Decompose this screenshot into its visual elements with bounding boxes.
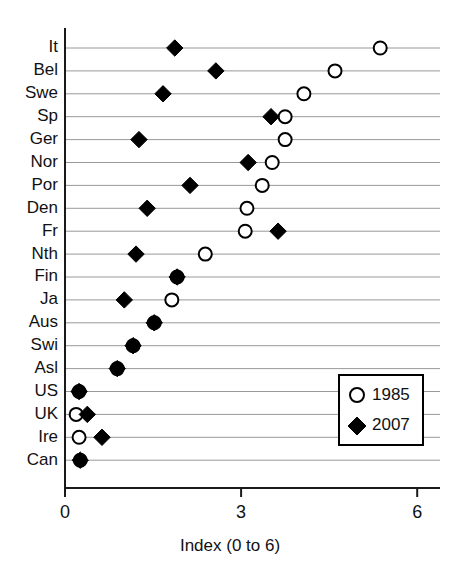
category-label-por: Por xyxy=(32,175,59,194)
data-point-1985-den xyxy=(240,202,253,215)
data-point-1985-nor xyxy=(266,156,279,169)
data-point-2007-por xyxy=(182,177,198,193)
data-point-1985-ger xyxy=(279,133,292,146)
data-point-1985-swe xyxy=(297,87,310,100)
data-point-2007-nor xyxy=(240,154,256,170)
data-point-1985-ire xyxy=(73,431,86,444)
category-label-fr: Fr xyxy=(42,221,58,240)
category-label-sp: Sp xyxy=(37,106,58,125)
data-point-2007-bel xyxy=(208,63,224,79)
x-tick-group: 036 xyxy=(60,488,422,522)
category-label-it: It xyxy=(49,37,59,56)
category-label-ger: Ger xyxy=(30,129,59,148)
data-point-2007-ger xyxy=(131,131,147,147)
data-point-2007-it xyxy=(167,40,183,56)
category-label-fin: Fin xyxy=(34,266,58,285)
category-label-nor: Nor xyxy=(31,152,59,171)
x-tick-label-6: 6 xyxy=(412,502,422,522)
data-point-2007-sp xyxy=(263,109,279,125)
x-axis-title: Index (0 to 6) xyxy=(180,536,280,555)
category-label-can: Can xyxy=(27,450,58,469)
data-point-2007-uk xyxy=(79,406,95,422)
x-tick-label-0: 0 xyxy=(60,502,70,522)
category-label-asl: Asl xyxy=(34,358,58,377)
data-point-2007-ja xyxy=(116,292,132,308)
data-point-2007-ire xyxy=(94,429,110,445)
data-point-2007-nth xyxy=(128,246,144,262)
category-label-bel: Bel xyxy=(33,60,58,79)
data-point-2007-asl xyxy=(109,360,125,376)
category-label-ja: Ja xyxy=(40,289,59,308)
category-label-uk: UK xyxy=(34,404,58,423)
legend-marker-open-circle-icon xyxy=(350,388,364,402)
data-point-2007-aus xyxy=(146,315,162,331)
chart-canvas: ItBelSweSpGerNorPorDenFrNthFinJaAusSwiAs… xyxy=(0,0,455,573)
chart-legend: 1985 2007 xyxy=(339,375,423,445)
data-point-1985-bel xyxy=(329,64,342,77)
data-point-1985-it xyxy=(374,42,387,55)
data-point-2007-den xyxy=(139,200,155,216)
x-tick-label-3: 3 xyxy=(236,502,246,522)
category-label-us: US xyxy=(34,381,58,400)
data-point-1985-nth xyxy=(199,248,212,261)
data-point-2007-swi xyxy=(125,338,141,354)
data-point-1985-fr xyxy=(239,225,252,238)
data-point-1985-por xyxy=(256,179,269,192)
data-point-2007-can xyxy=(72,452,88,468)
category-label-den: Den xyxy=(27,198,58,217)
data-point-2007-fin xyxy=(169,269,185,285)
category-labels-group: ItBelSweSpGerNorPorDenFrNthFinJaAusSwiAs… xyxy=(25,37,59,468)
category-label-swi: Swi xyxy=(31,335,58,354)
data-point-1985-ja xyxy=(165,293,178,306)
category-label-ire: Ire xyxy=(38,427,58,446)
category-label-aus: Aus xyxy=(29,312,58,331)
legend-label-1985: 1985 xyxy=(372,385,410,404)
data-point-2007-swe xyxy=(155,86,171,102)
data-point-2007-us xyxy=(71,383,87,399)
category-label-nth: Nth xyxy=(32,244,58,263)
data-point-2007-fr xyxy=(270,223,286,239)
dot-plot-chart: ItBelSweSpGerNorPorDenFrNthFinJaAusSwiAs… xyxy=(0,0,455,573)
legend-label-2007: 2007 xyxy=(372,415,410,434)
category-label-swe: Swe xyxy=(25,83,58,102)
data-point-1985-sp xyxy=(279,110,292,123)
